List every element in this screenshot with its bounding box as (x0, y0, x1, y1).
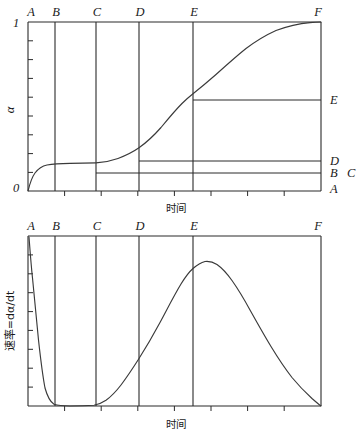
top-stage-label-b: B (52, 5, 60, 19)
top-chart-y-axis-label: α (3, 106, 17, 113)
rate-stage-label-f: F (313, 219, 322, 233)
right-level-label-b: B (330, 166, 338, 180)
top-stage-label-c: C (93, 5, 102, 19)
rate-stage-label-e: E (189, 219, 198, 233)
top-stage-label-a: A (26, 5, 35, 19)
top-stage-label-e: E (189, 5, 198, 19)
top-chart-x-ticks (65, 191, 285, 196)
bottom-chart-y-axis-label: 速率=dα/dt (3, 290, 17, 351)
bottom-chart-x-axis-label: 时间 (166, 418, 186, 430)
top-chart-stage-lines (55, 22, 193, 191)
top-chart-ymin-label: 0 (13, 181, 20, 195)
right-level-label-a: A (329, 182, 338, 196)
rate-stage-label-d: D (134, 219, 144, 233)
bottom-chart-x-ticks (65, 406, 285, 411)
rate-stage-label-a: A (26, 219, 35, 233)
top-chart-y-ticks (28, 41, 33, 173)
top-chart-level-lines (96, 100, 321, 173)
rate-curve (29, 237, 321, 406)
top-chart-ymax-label: 1 (13, 16, 19, 30)
alpha-curve (28, 22, 321, 191)
chart-conversion-vs-time: 1 0 α 时间 A B C D E F E D B C A (3, 5, 356, 214)
top-stage-label-d: D (134, 5, 144, 19)
rate-stage-label-b: B (52, 219, 60, 233)
top-chart-x-axis-label: 时间 (166, 202, 186, 214)
rate-stage-label-c: C (93, 219, 102, 233)
top-stage-label-f: F (313, 5, 322, 19)
right-level-label-e: E (329, 93, 338, 107)
dual-chart-figure: 1 0 α 时间 A B C D E F E D B C A (0, 0, 360, 439)
chart-rate-vs-time: 速率=dα/dt 时间 A B C D E F (3, 219, 322, 430)
figure-svg: 1 0 α 时间 A B C D E F E D B C A (0, 0, 360, 439)
right-level-label-c: C (347, 166, 356, 180)
